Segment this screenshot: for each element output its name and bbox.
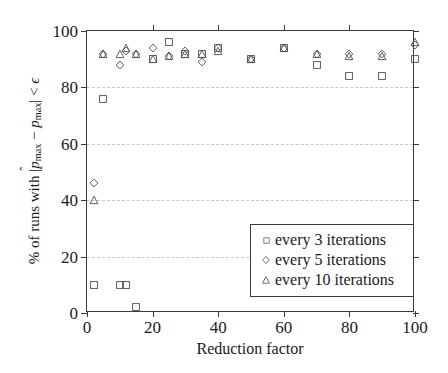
- data-point-square-20-90: [148, 55, 157, 64]
- scatter-chart-figure: % of runs with |̂pmax − pmax| < ϵ 020406…: [0, 0, 448, 373]
- data-point-diamond-20-94: [148, 43, 157, 52]
- data-point-diamond-40-94: [214, 43, 223, 52]
- data-point-square-90-84: [378, 72, 387, 81]
- data-point-triangle-5-92: [99, 49, 108, 58]
- data-point-triangle-10-92: [115, 49, 124, 58]
- data-point-square-2-10: [89, 280, 98, 289]
- p-symbol: p: [26, 120, 42, 128]
- x-tick-0: [87, 311, 88, 317]
- data-point-diamond-50-90: [247, 55, 256, 64]
- gridline-y-80: [87, 87, 413, 88]
- data-point-triangle-12-94: [122, 43, 131, 52]
- data-point-diamond-35-89: [197, 58, 206, 67]
- chart-legend: every 3 iterationsevery 5 iterationsever…: [250, 224, 414, 297]
- y-tick-right-0: [413, 313, 419, 314]
- legend-label-1: every 3 iterations: [275, 232, 386, 248]
- y-tick-right-100: [413, 31, 419, 32]
- data-point-diamond-15-92: [132, 49, 141, 58]
- y-tick-20: [81, 257, 87, 258]
- p-letter: p: [26, 161, 42, 169]
- y-tick-label-0: 0: [70, 305, 79, 322]
- data-point-triangle-20-90: [148, 55, 157, 64]
- data-point-square-40-94: [214, 43, 223, 52]
- x-tick-20: [153, 311, 154, 317]
- x-axis-title: Reduction factor: [86, 340, 414, 358]
- y-tick-60: [81, 144, 87, 145]
- data-point-square-10-10: [115, 280, 124, 289]
- data-point-triangle-90-91: [378, 52, 387, 61]
- data-point-square-15-2: [132, 303, 141, 312]
- y-tick-right-80: [413, 87, 419, 88]
- data-point-triangle-60-94: [279, 43, 288, 52]
- y-tick-label-100: 100: [53, 23, 79, 40]
- y-tick-label-40: 40: [61, 192, 78, 209]
- data-point-diamond-60-94: [279, 43, 288, 52]
- x-tick-40: [218, 311, 219, 317]
- x-tick-label-20: 20: [144, 319, 161, 336]
- data-point-square-25-96: [165, 38, 174, 47]
- y-axis-title: % of runs with |̂pmax − pmax| < ϵ: [26, 30, 52, 312]
- y-tick-40: [81, 200, 87, 201]
- y-tick-right-40: [413, 200, 419, 201]
- x-tick-top-40: [218, 25, 219, 31]
- legend-item-3[interactable]: every 10 iterations: [257, 270, 407, 290]
- legend-label-3: every 10 iterations: [275, 272, 394, 288]
- x-tick-top-80: [349, 25, 350, 31]
- data-point-square-12-10: [122, 280, 131, 289]
- data-point-diamond-100-95: [411, 41, 420, 50]
- data-point-triangle-80-91: [345, 52, 354, 61]
- data-point-diamond-5-92: [99, 49, 108, 58]
- legend-item-2[interactable]: every 5 iterations: [257, 250, 407, 270]
- legend-item-1[interactable]: every 3 iterations: [257, 230, 407, 250]
- data-point-square-30-92: [181, 49, 190, 58]
- legend-label-2: every 5 iterations: [275, 252, 386, 268]
- x-tick-top-60: [284, 25, 285, 31]
- data-point-diamond-80-92: [345, 49, 354, 58]
- y-tick-80: [81, 87, 87, 88]
- gridline-y-60: [87, 144, 413, 145]
- y-tick-100: [81, 31, 87, 32]
- data-point-diamond-30-93: [181, 46, 190, 55]
- x-tick-label-80: 80: [341, 319, 358, 336]
- less-than-sign: <: [26, 84, 42, 100]
- data-point-diamond-10-88: [115, 60, 124, 69]
- data-point-triangle-100-96: [411, 38, 420, 47]
- data-point-triangle-15-92: [132, 49, 141, 58]
- y-axis-title-prefix: % of runs with: [26, 172, 42, 265]
- minus-sign: −: [26, 128, 42, 144]
- data-point-diamond-70-92: [312, 49, 321, 58]
- y-tick-label-80: 80: [61, 79, 78, 96]
- y-tick-label-60: 60: [61, 135, 78, 152]
- data-point-triangle-35-92: [197, 49, 206, 58]
- data-point-triangle-30-92: [181, 49, 190, 58]
- data-point-triangle-40-93: [214, 46, 223, 55]
- x-tick-top-20: [153, 25, 154, 31]
- triangle-marker: [257, 276, 275, 284]
- data-point-diamond-12-93: [122, 46, 131, 55]
- data-point-square-100-90: [411, 55, 420, 64]
- data-point-diamond-90-92: [378, 49, 387, 58]
- y-axis-title-bar-close: |: [26, 100, 42, 103]
- data-point-square-60-94: [279, 43, 288, 52]
- epsilon-symbol: ϵ: [26, 78, 42, 84]
- y-axis-title-bar-open: |: [26, 169, 42, 172]
- square-marker: [257, 237, 275, 244]
- x-tick-80: [349, 311, 350, 317]
- x-tick-100: [415, 311, 416, 317]
- data-point-square-80-84: [345, 72, 354, 81]
- p-hat-subscript: max: [32, 144, 43, 162]
- data-point-diamond-2-46: [89, 179, 98, 188]
- x-tick-label-40: 40: [210, 319, 227, 336]
- diamond-marker: [257, 256, 275, 264]
- x-tick-label-0: 0: [83, 319, 92, 336]
- data-point-square-35-92: [197, 49, 206, 58]
- x-tick-60: [284, 311, 285, 317]
- x-tick-label-100: 100: [402, 319, 428, 336]
- data-point-square-5-76: [99, 94, 108, 103]
- data-point-triangle-25-91: [165, 52, 174, 61]
- x-tick-label-60: 60: [275, 319, 292, 336]
- data-point-square-70-88: [312, 60, 321, 69]
- p-subscript: max: [32, 103, 43, 121]
- y-tick-right-60: [413, 144, 419, 145]
- gridline-y-40: [87, 200, 413, 201]
